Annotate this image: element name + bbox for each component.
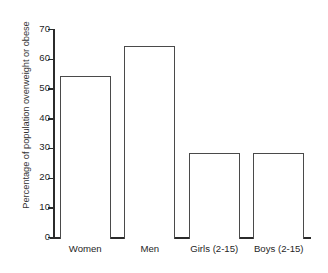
bar [189, 153, 240, 239]
y-tick-label: 20 [39, 171, 50, 182]
x-tick-label: Women [69, 243, 102, 254]
plot-area: 010203040506070 WomenMenGirls (2-15)Boys… [53, 29, 311, 239]
y-tick-label: 50 [39, 82, 50, 93]
y-tick-label: 40 [39, 112, 50, 123]
y-tick-label: 0 [45, 231, 50, 242]
bar [124, 46, 175, 239]
y-axis-label: Percentage of population overweight or o… [21, 10, 31, 220]
bar-chart-figure: Percentage of population overweight or o… [0, 0, 328, 273]
x-tick-label: Men [140, 243, 159, 254]
bar [253, 153, 304, 239]
bar [60, 76, 111, 239]
y-tick-label: 60 [39, 52, 50, 63]
y-tick-label: 30 [39, 141, 50, 152]
x-tick-label: Girls (2-15) [190, 243, 238, 254]
x-tick-label: Boys (2-15) [254, 243, 304, 254]
y-tick-label: 10 [39, 201, 50, 212]
y-tick-label: 70 [39, 23, 50, 34]
